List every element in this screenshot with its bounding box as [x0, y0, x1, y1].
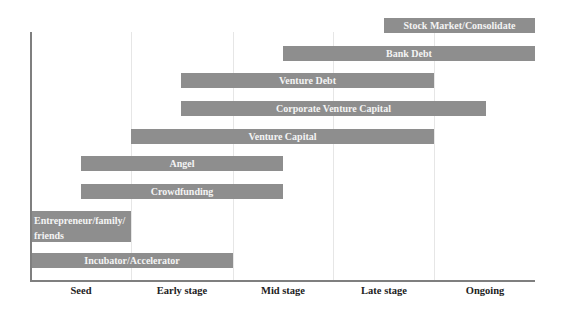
bar-angel: Angel [81, 156, 283, 171]
gridline [434, 32, 435, 280]
bar-venture-debt: Venture Debt [181, 73, 434, 88]
bar-label: friends [34, 228, 64, 243]
y-axis [30, 32, 32, 282]
bar-label: Venture Capital [248, 131, 316, 142]
bar-label: Corporate Venture Capital [276, 103, 391, 114]
bar-label: Crowdfunding [151, 186, 214, 197]
gridline [333, 32, 334, 280]
bar-label: Bank Debt [386, 48, 432, 59]
bar-label: Incubator/Accelerator [84, 255, 180, 266]
x-tick-seed: Seed [31, 285, 131, 296]
bar-label: Stock Market/Consolidate [404, 20, 516, 31]
bar-label: Angel [170, 158, 195, 169]
x-tick-ongoing: Ongoing [435, 285, 535, 296]
bar-corporate-vc: Corporate Venture Capital [181, 101, 486, 116]
bar-bank-debt: Bank Debt [283, 46, 535, 61]
x-tick-late: Late stage [334, 285, 434, 296]
bar-entrepreneur-family-friends: Entrepreneur/family/ friends [31, 211, 131, 242]
bar-label: Entrepreneur/family/ [34, 213, 125, 228]
bar-venture-capital: Venture Capital [131, 129, 434, 144]
bar-crowdfunding: Crowdfunding [81, 184, 283, 199]
bar-incubator-accelerator: Incubator/Accelerator [31, 253, 233, 268]
bar-label: Venture Debt [279, 75, 336, 86]
x-tick-early: Early stage [132, 285, 232, 296]
x-axis [30, 280, 535, 282]
bar-stock-market: Stock Market/Consolidate [384, 18, 535, 33]
x-tick-mid: Mid stage [233, 285, 333, 296]
